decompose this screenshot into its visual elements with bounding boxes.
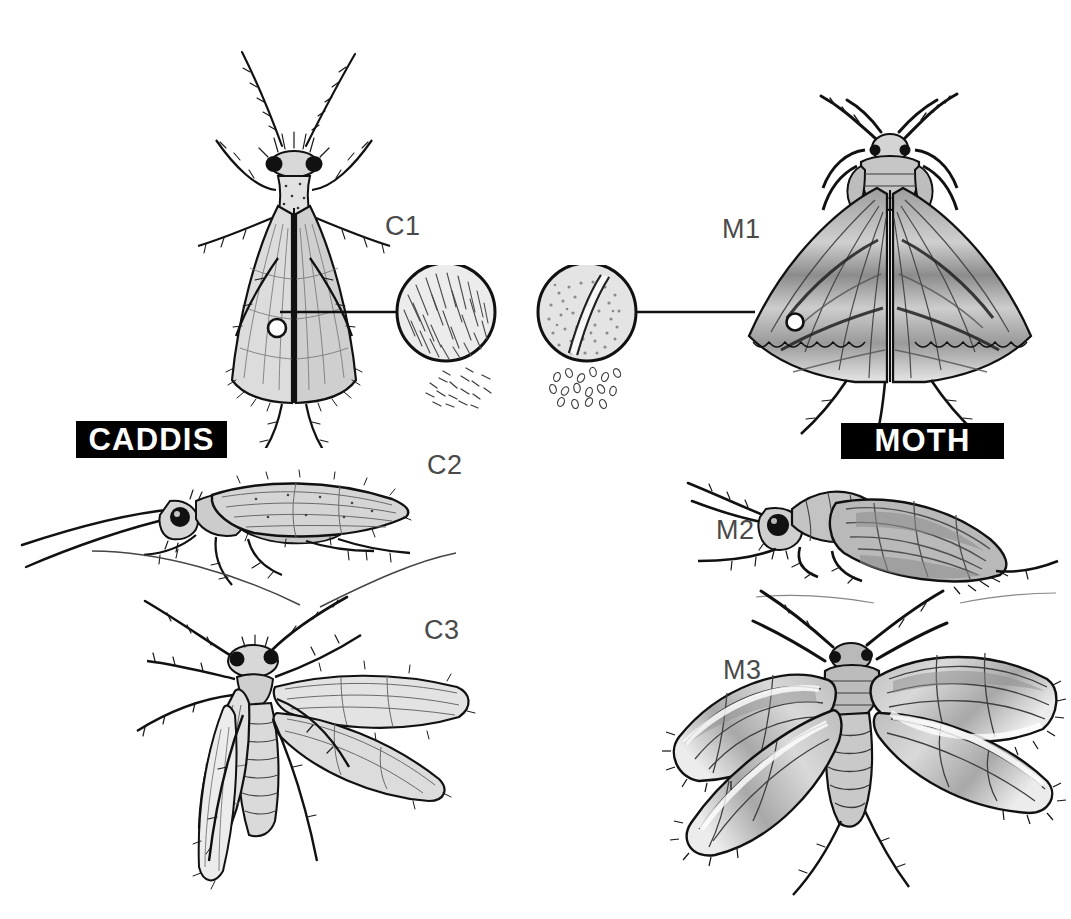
label-c2: C2 [427,452,463,479]
label-c1: C1 [385,213,421,240]
banner-caddis: CADDIS [76,421,227,458]
label-m3: M3 [723,657,762,684]
comparison-plate: C1 M1 C2 M2 C3 M3 CADDIS MOTH [0,0,1071,919]
figure-m1-moth-dorsal [735,70,1045,455]
label-m2: M2 [716,517,755,544]
label-m1: M1 [722,216,761,243]
magnifier-moth-scales [525,265,755,410]
figure-m3-moth-wings-spread [655,585,1070,910]
banner-moth: MOTH [841,423,1004,459]
magnifier-caddis-hairs [280,265,510,410]
label-c3: C3 [424,617,460,644]
